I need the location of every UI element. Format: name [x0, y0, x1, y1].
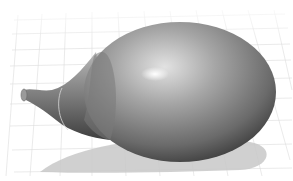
- render-viewport: [0, 0, 293, 181]
- spout-opening: [21, 89, 27, 101]
- render-canvas: [0, 0, 293, 181]
- specular-highlight: [141, 67, 169, 81]
